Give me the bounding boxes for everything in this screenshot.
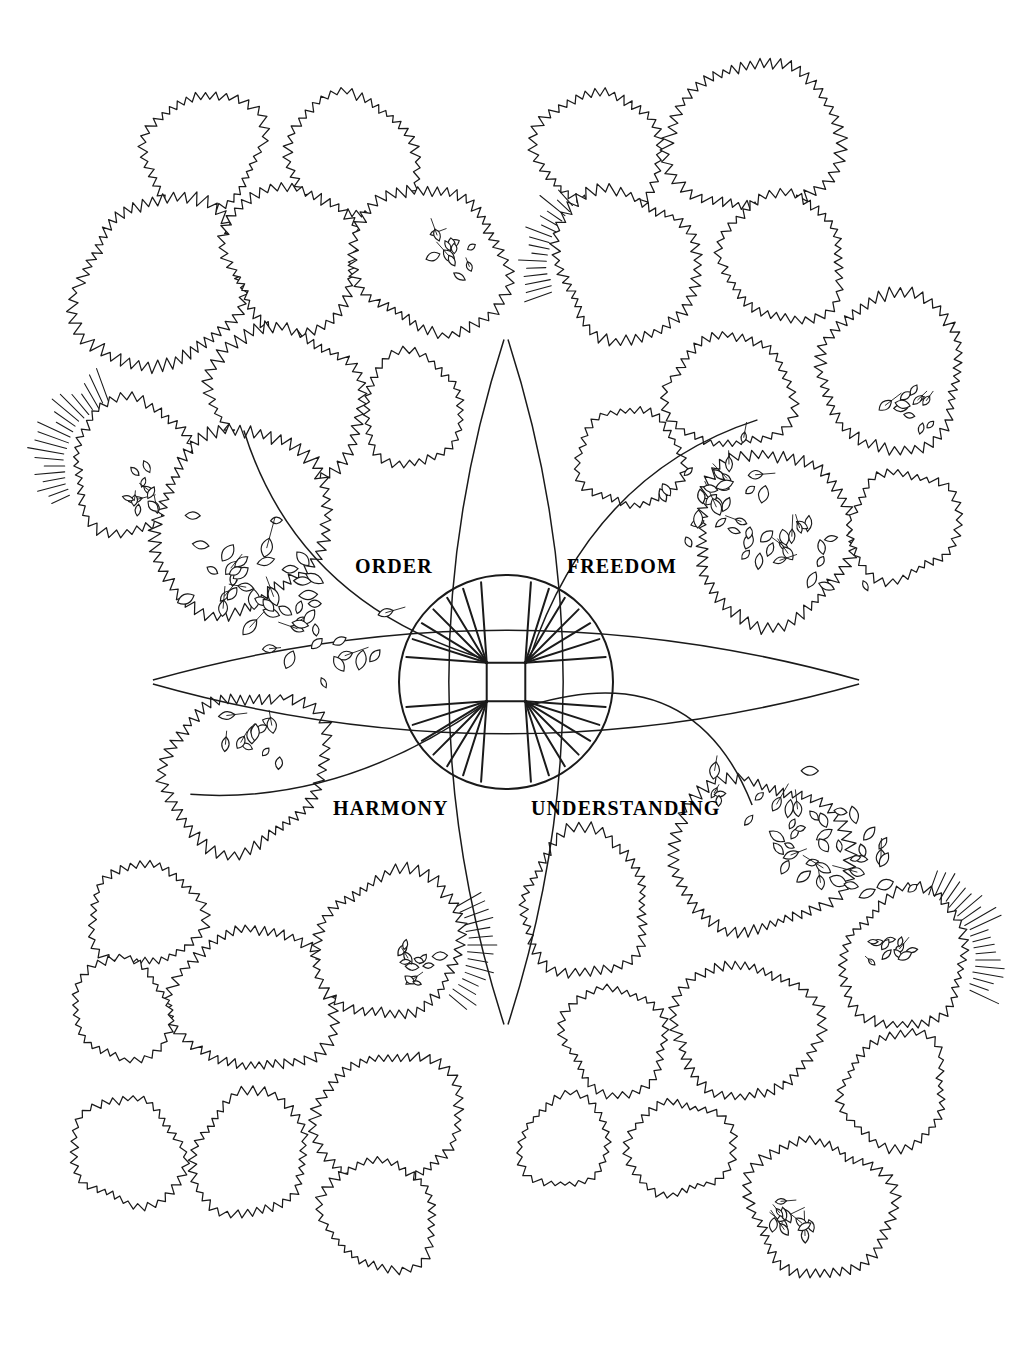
tree-canopy: [316, 1157, 436, 1275]
hatch-stroke: [43, 478, 65, 482]
leaf: [313, 624, 320, 636]
hatch-stroke: [465, 972, 485, 979]
hatch-stroke: [965, 908, 996, 926]
hatch-stroke: [540, 195, 565, 215]
tree-canopy: [660, 58, 847, 212]
hatch-stroke: [60, 394, 84, 418]
leaf: [321, 678, 327, 688]
hatch-stroke: [524, 274, 547, 277]
leaf: [685, 537, 692, 547]
leaf-twig: [881, 838, 882, 857]
tree-canopy: [814, 287, 962, 455]
leaf: [877, 879, 893, 889]
hatch-stroke: [55, 412, 75, 426]
hatch-stroke: [97, 369, 109, 402]
hatch-stroke: [540, 216, 556, 225]
leaf: [308, 600, 321, 607]
leaf: [370, 650, 380, 662]
leaf: [284, 651, 295, 668]
leaf: [879, 838, 887, 849]
tree-canopy: [161, 925, 339, 1069]
tree-canopy: [550, 184, 703, 346]
hatch-stroke: [52, 399, 78, 421]
hatch-stroke: [970, 990, 999, 1003]
hatch-stroke: [38, 432, 68, 443]
hatch-stroke: [38, 422, 70, 437]
leaf: [801, 766, 818, 775]
hatch-stroke: [974, 944, 994, 948]
tree-canopy: [623, 1098, 737, 1198]
hatch-stroke: [974, 978, 994, 983]
hatch-stroke: [453, 989, 476, 1005]
hatch-stroke: [525, 292, 552, 302]
hand-drawn-landscape-artwork: [0, 0, 1016, 1357]
tree-canopy: [67, 192, 249, 374]
ray-node-upper-left: [406, 582, 488, 664]
hatch-stroke: [459, 985, 476, 995]
quadrant-label-freedom: FREEDOM: [567, 556, 677, 576]
hatch-stroke: [527, 268, 546, 269]
hatch-stroke: [463, 979, 479, 986]
leaf: [296, 601, 303, 613]
hatch-stroke: [35, 458, 63, 460]
ray-node-upper-right: [524, 582, 606, 664]
hatch-stroke: [56, 422, 72, 431]
leaf: [423, 963, 434, 968]
tree-canopy: [70, 1096, 189, 1211]
emblem-outer-circle: [399, 575, 613, 789]
hatch-stroke: [526, 286, 551, 293]
tree-canopy: [743, 1136, 902, 1278]
hatch-stroke: [547, 211, 561, 221]
hatch-stroke: [468, 952, 494, 954]
hatch-stroke: [465, 909, 489, 918]
hatch-stroke: [973, 972, 1003, 977]
tree-canopy-layer: [67, 58, 969, 1277]
hatch-stroke: [469, 936, 492, 938]
hatch-stroke: [970, 915, 1001, 929]
tree-canopy: [519, 822, 647, 978]
ray-node-lower-left: [406, 700, 488, 782]
leaf: [400, 959, 411, 964]
hatch-stroke: [72, 394, 89, 414]
hatch-stroke: [84, 384, 98, 409]
tree-canopy: [156, 694, 332, 860]
tree-canopy: [72, 954, 174, 1062]
quadrant-label-order: ORDER: [355, 556, 433, 576]
leaf: [312, 639, 323, 649]
tree-canopy: [188, 1086, 308, 1218]
tree-canopy: [348, 185, 514, 338]
hatch-stroke: [466, 965, 493, 972]
leaf: [451, 243, 457, 253]
leaf: [859, 889, 875, 898]
hatch-stroke: [530, 237, 549, 243]
hatch-stroke: [525, 280, 550, 285]
quadrant-label-harmony: HARMONY: [333, 798, 448, 818]
leaf: [356, 650, 366, 670]
tree-canopy: [363, 346, 464, 468]
leaf: [271, 517, 283, 524]
hatch-stroke: [465, 917, 493, 924]
hatch-stroke: [949, 888, 965, 907]
hatch-stroke: [976, 952, 996, 954]
hatch-stroke: [973, 937, 990, 942]
hatch-stroke: [958, 896, 982, 916]
leaf: [333, 637, 346, 645]
tree-canopy: [835, 1029, 945, 1154]
tree-canopy: [517, 1090, 611, 1186]
leaf: [299, 591, 317, 600]
tree-canopy: [847, 469, 963, 586]
leaf: [863, 581, 869, 591]
hatch-stroke: [976, 966, 1005, 969]
tree-canopy: [311, 862, 467, 1018]
leaf: [185, 512, 200, 519]
tree-canopy: [89, 860, 211, 964]
hatch-stroke: [49, 489, 68, 496]
emblem-inner-diamond: [487, 663, 526, 702]
arc-horizontal-top: [153, 630, 859, 680]
hatch-stroke: [532, 253, 548, 255]
hatch-stroke: [38, 484, 66, 491]
leaf: [279, 606, 292, 615]
hatch-stroke: [519, 260, 547, 261]
hatch-stroke: [35, 472, 65, 475]
leaf: [850, 806, 859, 823]
